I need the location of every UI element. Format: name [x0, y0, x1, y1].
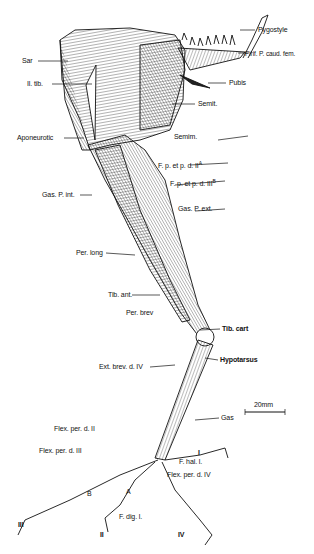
- label-sar: Sar: [22, 57, 33, 65]
- label-tib-ant: Tib. ant.: [108, 291, 132, 299]
- label-gas-p-ext: Gas. P. ext.: [178, 205, 212, 213]
- label-fpd2: F. p. et p. d. IIA: [158, 159, 202, 170]
- label-semim: Semim.: [174, 133, 197, 141]
- label-per-brev: Per. brev: [126, 309, 153, 317]
- leg-anatomy-drawing: [0, 0, 314, 554]
- label-gas: Gas: [221, 414, 234, 422]
- label-per-long: Per. long: [76, 249, 103, 257]
- label-pubis: Pubis: [229, 79, 246, 87]
- label-pygostyle: Pygostyle: [258, 26, 287, 34]
- label-aponeurotic: Aponeurotic: [17, 134, 53, 142]
- label-semit: Semit.: [198, 100, 217, 108]
- label-ext-brev: Ext. brev. d. IV: [99, 363, 143, 371]
- label-letter-a: A: [126, 488, 131, 496]
- label-letter-b: B: [87, 490, 92, 498]
- label-digit-1: I: [198, 449, 200, 457]
- label-il-tib: Il. tib.: [27, 80, 43, 88]
- label-digit-2: II: [100, 531, 104, 539]
- label-digit-4: IV: [178, 531, 184, 539]
- label-tib-cart: Tib. cart: [222, 325, 248, 333]
- label-fpd3: F. p. et p. d. IIIB: [170, 177, 216, 188]
- label-flex-per-d4: Flex. per. d. IV: [167, 471, 211, 479]
- label-flex-per-d2: Flex. per. d. II: [54, 425, 95, 433]
- label-hypotarsus: Hypotarsus: [220, 356, 258, 364]
- label-gas-p-int: Gas. P. int.: [42, 191, 75, 199]
- label-f-dig-l: F. dig. l.: [119, 513, 142, 521]
- label-f-hal-l: F. hal. l.: [179, 458, 202, 466]
- scale-bar-label: 20mm: [254, 401, 273, 409]
- label-pirif: Pirif. P. caud. fem.: [245, 50, 295, 58]
- label-flex-per-d3: Flex. per. d. III: [39, 447, 82, 455]
- label-digit-3: III: [18, 521, 24, 529]
